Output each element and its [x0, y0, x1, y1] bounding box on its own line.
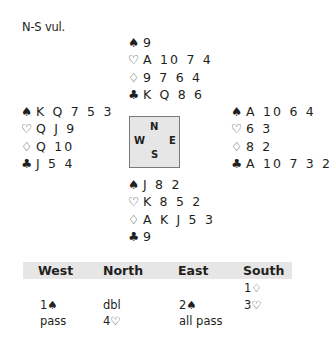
west-diamonds: ♢Q 10 — [21, 138, 114, 155]
spade-icon: ♠ — [128, 176, 143, 193]
compass-south: S — [151, 149, 158, 160]
heart-icon: ♡ — [21, 120, 36, 137]
east-clubs: ♣A 10 7 3 2 — [231, 155, 332, 172]
diamond-icon: ♢ — [128, 69, 143, 86]
diamond-icon: ♢ — [21, 138, 36, 155]
spade-icon: ♠ — [128, 34, 143, 51]
header-south: South — [243, 263, 284, 278]
bid: dbl — [103, 298, 121, 312]
west-hearts: ♡Q J 9 — [21, 120, 114, 137]
south-diamonds: ♢A K J 5 3 — [128, 211, 215, 228]
east-hand: ♠A 10 6 4 ♡6 3 ♢8 2 ♣A 10 7 3 2 — [231, 103, 332, 172]
bid: 1♠ — [40, 298, 58, 312]
east-spades: ♠A 10 6 4 — [231, 103, 332, 120]
bid: pass — [40, 314, 66, 328]
east-hearts: ♡6 3 — [231, 120, 332, 137]
bid: 3♡ — [244, 298, 262, 312]
bid: all pass — [179, 314, 222, 328]
south-hand: ♠J 8 2 ♡K 8 5 2 ♢A K J 5 3 ♣9 — [128, 176, 215, 245]
bid: 2♠ — [179, 298, 197, 312]
club-icon: ♣ — [128, 228, 143, 245]
heart-icon: ♡ — [128, 193, 143, 210]
club-icon: ♣ — [231, 155, 246, 172]
vulnerability-label: N-S vul. — [22, 20, 65, 34]
header-north: North — [103, 263, 143, 278]
east-diamonds: ♢8 2 — [231, 138, 332, 155]
compass-east: E — [169, 135, 176, 146]
spade-icon: ♠ — [231, 103, 246, 120]
header-west: West — [38, 263, 73, 278]
south-spades: ♠J 8 2 — [128, 176, 215, 193]
north-spades: ♠9 — [128, 34, 213, 51]
diamond-icon: ♢ — [128, 211, 143, 228]
north-diamonds: ♢9 7 6 4 — [128, 69, 213, 86]
club-icon: ♣ — [128, 86, 143, 103]
diamond-icon: ♢ — [231, 138, 246, 155]
compass-north: N — [150, 121, 158, 132]
south-hearts: ♡K 8 5 2 — [128, 193, 215, 210]
south-clubs: ♣9 — [128, 228, 215, 245]
north-clubs: ♣K Q 8 6 — [128, 86, 213, 103]
header-east: East — [178, 263, 208, 278]
club-icon: ♣ — [21, 155, 36, 172]
heart-icon: ♡ — [231, 120, 246, 137]
north-hearts: ♡A 10 7 4 — [128, 51, 213, 68]
north-hand: ♠9 ♡A 10 7 4 ♢9 7 6 4 ♣K Q 8 6 — [128, 34, 213, 103]
west-hand: ♠K Q 7 5 3 ♡Q J 9 ♢Q 10 ♣J 5 4 — [21, 103, 114, 172]
west-spades: ♠K Q 7 5 3 — [21, 103, 114, 120]
bid: 4♡ — [103, 314, 121, 328]
heart-icon: ♡ — [128, 51, 143, 68]
west-clubs: ♣J 5 4 — [21, 155, 114, 172]
bid: 1♢ — [244, 281, 262, 295]
compass-box: N W E S — [129, 116, 180, 168]
auction-header: West North East South — [23, 262, 292, 279]
compass-west: W — [134, 135, 145, 146]
spade-icon: ♠ — [21, 103, 36, 120]
